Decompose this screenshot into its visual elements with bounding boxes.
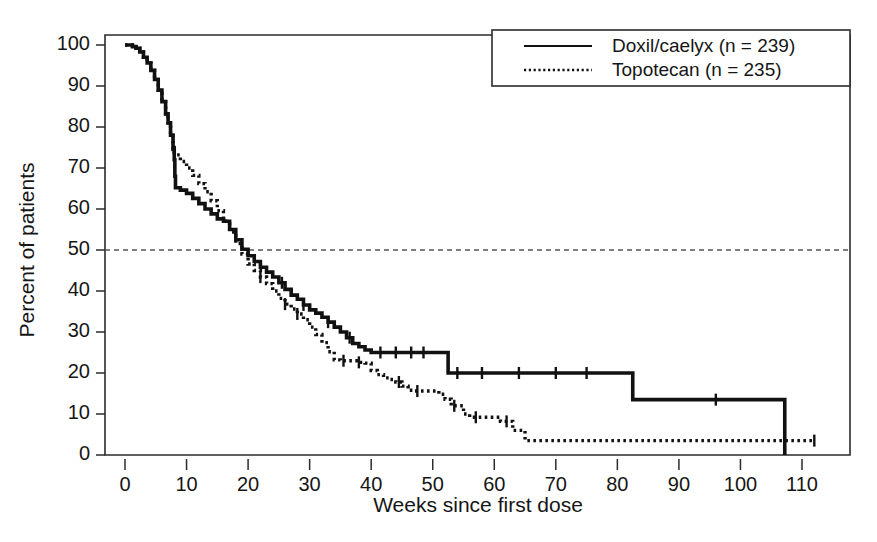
x-tick-label: 0 xyxy=(119,473,130,495)
y-axis-title: Percent of patients xyxy=(15,162,38,337)
x-tick-label: 80 xyxy=(606,473,628,495)
y-tick-label: 40 xyxy=(68,278,90,300)
legend-label-topotecan: Topotecan (n = 235) xyxy=(612,59,782,80)
kaplan-meier-figure: 0102030405060708090100 01020304050607080… xyxy=(0,0,877,542)
x-tick-label: 90 xyxy=(668,473,690,495)
y-tick-label: 30 xyxy=(68,319,90,341)
y-tick-label: 20 xyxy=(68,360,90,382)
x-tick-label: 20 xyxy=(237,473,259,495)
legend-label-doxil: Doxil/caelyx (n = 239) xyxy=(612,35,795,56)
y-tick-label: 90 xyxy=(68,73,90,95)
x-tick-label: 10 xyxy=(175,473,197,495)
y-tick-label: 100 xyxy=(57,32,90,54)
y-tick-label: 50 xyxy=(68,237,90,259)
x-tick-label: 110 xyxy=(786,473,818,495)
x-tick-label: 30 xyxy=(299,473,321,495)
y-tick-label: 60 xyxy=(68,196,90,218)
x-axis-title: Weeks since first dose xyxy=(373,493,583,516)
survival-chart: 0102030405060708090100 01020304050607080… xyxy=(0,0,877,542)
y-tick-label: 80 xyxy=(68,114,90,136)
x-tick-label: 100 xyxy=(724,473,757,495)
y-tick-label: 10 xyxy=(68,401,90,423)
legend: Doxil/caelyx (n = 239) Topotecan (n = 23… xyxy=(492,30,850,86)
y-tick-label: 0 xyxy=(79,442,90,464)
y-tick-label: 70 xyxy=(68,155,90,177)
